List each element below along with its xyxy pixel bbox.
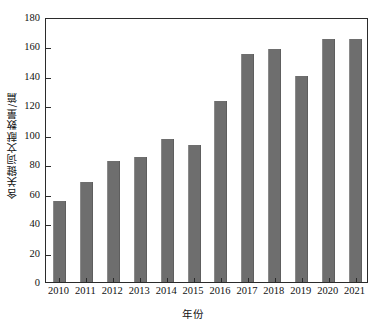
y-axis-tick-label: 180 bbox=[24, 13, 40, 24]
bar bbox=[295, 76, 308, 282]
x-axis-tick-mark bbox=[140, 278, 141, 282]
x-axis-tick-mark bbox=[221, 278, 222, 282]
plot-area bbox=[45, 18, 368, 283]
bar bbox=[53, 201, 66, 282]
x-axis-tick-label: 2016 bbox=[209, 286, 230, 297]
x-axis-tick-label: 2012 bbox=[102, 286, 123, 297]
x-axis-tick-label: 2021 bbox=[344, 286, 365, 297]
bar bbox=[322, 39, 335, 282]
x-axis-tick-mark bbox=[59, 278, 60, 282]
y-axis-tick-label: 20 bbox=[30, 248, 41, 259]
y-axis-tick-mark bbox=[46, 78, 51, 79]
x-axis-tick-label: 2013 bbox=[129, 286, 150, 297]
y-axis-tick-mark bbox=[46, 137, 51, 138]
bar bbox=[268, 49, 281, 282]
y-axis-tick-mark bbox=[46, 255, 51, 256]
y-axis-tick-label: 160 bbox=[24, 42, 40, 53]
y-axis-tick-mark bbox=[46, 107, 51, 108]
x-axis-title: 年份 bbox=[0, 306, 385, 321]
x-axis-tick-labels: 2010201120122013201420152016201720182019… bbox=[45, 286, 368, 302]
bar bbox=[349, 39, 362, 282]
x-axis-tick-label: 2011 bbox=[75, 286, 96, 297]
y-axis-tick-label: 80 bbox=[30, 160, 41, 171]
x-axis-tick-mark bbox=[275, 278, 276, 282]
x-axis-tick-mark bbox=[86, 278, 87, 282]
y-axis-tick-label: 120 bbox=[24, 101, 40, 112]
y-axis-tick-label: 60 bbox=[30, 189, 41, 200]
x-axis-tick-mark bbox=[194, 278, 195, 282]
bar bbox=[214, 101, 227, 282]
y-axis-tick-mark bbox=[46, 196, 51, 197]
y-axis-tick-label: 0 bbox=[35, 278, 40, 289]
bar bbox=[80, 182, 93, 282]
bar bbox=[161, 139, 174, 282]
x-axis-tick-mark bbox=[167, 278, 168, 282]
x-axis-tick-mark bbox=[248, 278, 249, 282]
y-axis-tick-mark bbox=[46, 48, 51, 49]
y-axis-title-text: 含关键词文献数量/篇 bbox=[4, 92, 19, 199]
x-axis-tick-label: 2018 bbox=[263, 286, 284, 297]
x-axis-tick-mark bbox=[356, 278, 357, 282]
y-axis-tick-labels: 020406080100120140160180 bbox=[18, 18, 43, 283]
bar bbox=[188, 145, 201, 282]
x-axis-tick-label: 2020 bbox=[317, 286, 338, 297]
y-axis-tick-label: 40 bbox=[30, 219, 41, 230]
x-axis-tick-mark bbox=[302, 278, 303, 282]
x-axis-tick-label: 2017 bbox=[236, 286, 257, 297]
x-axis-tick-label: 2019 bbox=[290, 286, 311, 297]
x-axis-tick-label: 2014 bbox=[156, 286, 177, 297]
x-axis-tick-mark bbox=[113, 278, 114, 282]
bar bbox=[107, 161, 120, 282]
y-axis-tick-mark bbox=[46, 166, 51, 167]
bar bbox=[134, 157, 147, 282]
x-axis-tick-label: 2010 bbox=[48, 286, 69, 297]
y-axis-tick-mark bbox=[46, 225, 51, 226]
y-axis-tick-label: 140 bbox=[24, 72, 40, 83]
x-axis-tick-mark bbox=[329, 278, 330, 282]
y-axis-tick-label: 100 bbox=[24, 131, 40, 142]
plot-inner bbox=[46, 19, 367, 282]
bar bbox=[241, 54, 254, 282]
x-axis-tick-label: 2015 bbox=[183, 286, 204, 297]
bar-chart-figure: 含关键词文献数量/篇 020406080100120140160180 2010… bbox=[0, 0, 385, 335]
